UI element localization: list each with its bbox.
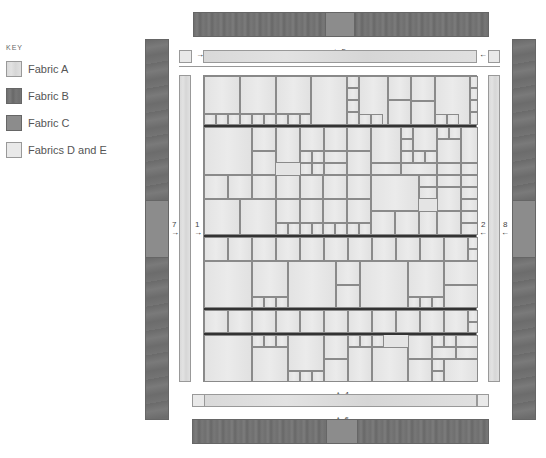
quilt-block [323,175,347,199]
quilt-block [468,322,478,333]
quilt-block [432,297,444,308]
quilt-block [324,163,347,175]
arrow-left-icon: ← [501,228,509,237]
quilt-block [324,359,348,382]
quilt-block [372,310,396,333]
quilt-block [347,100,359,112]
right-outer-border-bottom [512,257,536,420]
quilt-block [276,297,288,308]
legend-item-fabric-c: Fabric C [6,115,136,131]
quilt-block [432,347,456,359]
quilt-block [461,175,478,187]
quilt-block [204,310,228,333]
quilt-block [300,199,323,223]
quilt-block [419,175,437,187]
quilt-block [413,151,425,163]
quilt-block [240,76,276,114]
quilt-block [323,199,347,223]
left-outer-border-bottom [145,257,169,420]
quilt-block [470,88,478,100]
legend-label: Fabric B [28,90,69,102]
quilt-block [347,127,371,151]
quilt-block [371,114,383,125]
quilt-block [264,114,276,125]
quilt-block [470,112,478,125]
quilt-block [276,127,300,163]
quilt-block [324,310,348,333]
quilt-block [288,335,324,371]
quilt-block [359,114,371,125]
quilt-block [228,310,252,333]
quilt-block [388,76,411,100]
quilt-block [348,237,372,261]
quilt-block [444,335,456,347]
row-seam [204,235,476,237]
quilt-block [348,347,372,382]
top-inner-border-strip [203,50,477,63]
quilt-block [347,199,371,223]
quilt-block [371,127,401,163]
quilt-block [360,335,372,347]
quilt-block [252,114,264,125]
quilt-block [347,88,359,100]
quilt-block [411,101,435,125]
quilt-block [437,163,461,175]
right-outer-border-c [512,200,536,258]
bottom-inner-border-strip [204,394,477,407]
quilt-block [347,223,359,235]
quilt-block [288,223,300,235]
fabric-de-swatch [6,142,22,158]
quilt-block [312,371,324,382]
quilt-block [347,112,359,125]
quilt-block [311,76,347,125]
quilt-block [204,237,228,261]
quilt-block [437,139,461,163]
quilt-block [300,114,311,125]
quilt-block [420,297,432,308]
arrow-left-icon: ← [479,50,487,59]
quilt-block [228,114,240,125]
quilt-block [347,76,359,88]
quilt-block [372,335,384,347]
bottom-outer-border-left [192,419,327,444]
quilt-block [437,175,461,187]
quilt-block [437,127,449,139]
quilt-block [252,297,264,308]
quilt-block [276,223,288,235]
quilt-block [401,163,437,175]
quilt-block [204,335,252,382]
quilt-block [372,347,408,382]
quilt-center [203,75,477,382]
quilt-block [252,237,276,261]
left-outer-border-top [145,39,169,201]
quilt-block [252,347,288,382]
quilt-block [348,310,372,333]
quilt-block [456,335,478,347]
quilt-block [413,127,437,151]
quilt-block [336,285,360,308]
quilt-block [252,261,288,297]
quilt-block [347,175,371,199]
bottom-outer-border-corner-c [326,419,358,444]
quilt-block [312,163,324,175]
arrow-right-icon: → [171,228,179,237]
quilt-block [444,261,478,285]
legend-item-fabric-b: Fabric B [6,88,136,104]
quilt-block [336,261,360,285]
quilt-block [300,310,324,333]
quilt-block [276,335,288,347]
quilt-block [204,261,252,308]
quilt-block [371,163,401,175]
left-inner-border-strip [179,75,191,382]
quilt-block [419,187,437,199]
legend-item-fabrics-de: Fabrics D and E [6,142,136,158]
quilt-block [401,151,413,163]
quilt-block [204,114,216,125]
quilt-block [461,127,478,163]
legend-label: Fabric A [28,63,68,75]
quilt-block [300,371,312,382]
quilt-block [324,335,348,359]
quilt-block [420,237,444,261]
quilt-block [396,237,420,261]
quilt-block [252,310,276,333]
